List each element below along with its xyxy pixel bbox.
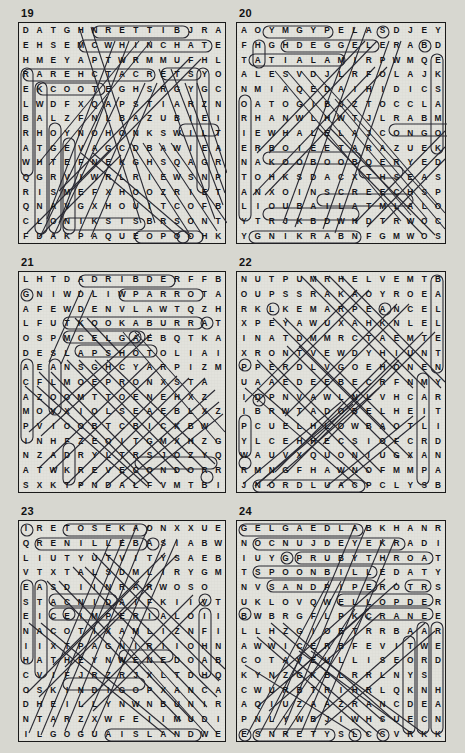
puzzle-number-21: 21: [21, 257, 226, 268]
letter-cell: T: [211, 316, 225, 331]
letter-cell: G: [292, 23, 306, 38]
letter-cell: B: [88, 419, 102, 434]
letter-cell: E: [88, 433, 102, 448]
puzzle-grid-19[interactable]: DATGHNRETTIBJRAEHSEMCWHINCHATEHMEYAPTWRM…: [18, 22, 226, 244]
letter-cell: O: [101, 316, 115, 331]
letter-cell: T: [211, 214, 225, 229]
letter-cell: A: [74, 345, 88, 360]
letter-cell: V: [279, 448, 293, 463]
puzzle-grid-21[interactable]: LHTDADRIBDERFFBGNIWDLIWPARROTAAFEWDENVLA…: [18, 271, 226, 493]
letter-cell: A: [417, 170, 431, 185]
letter-cell: B: [292, 682, 306, 697]
letter-cell: L: [88, 697, 102, 712]
letter-cell: D: [320, 536, 334, 551]
letter-cell: H: [101, 126, 115, 141]
letter-cell: H: [362, 82, 376, 97]
letter-cell: D: [431, 433, 445, 448]
letter-cell: Y: [237, 214, 251, 229]
letter-cell: Q: [251, 697, 265, 712]
letter-cell: O: [431, 199, 445, 214]
letter-cell: S: [390, 170, 404, 185]
letter-cell: [431, 668, 445, 683]
letter-cell: J: [362, 126, 376, 141]
letter-cell: T: [170, 67, 184, 82]
letter-cell: T: [292, 345, 306, 360]
letter-cell: A: [129, 316, 143, 331]
letter-cell: S: [129, 726, 143, 741]
puzzle-grid-24[interactable]: GELGAEDLABKHANRNOCNUJDEYEKRADIIUYGPRUBYT…: [236, 520, 446, 742]
letter-cell: A: [198, 316, 212, 331]
letter-cell: I: [170, 536, 184, 551]
letter-cell: T: [403, 419, 417, 434]
letter-cell: P: [129, 287, 143, 302]
letter-cell: H: [74, 67, 88, 82]
letter-cell: R: [156, 214, 170, 229]
letter-cell: A: [403, 67, 417, 82]
letter-cell: H: [129, 82, 143, 97]
letter-cell: I: [265, 697, 279, 712]
letter-cell: A: [211, 287, 225, 302]
letter-cell: E: [88, 331, 102, 346]
letter-cell: T: [33, 140, 47, 155]
letter-cell: P: [251, 316, 265, 331]
letter-cell: C: [334, 184, 348, 199]
letter-cell: S: [170, 550, 184, 565]
letter-cell: C: [265, 433, 279, 448]
letter-cell: D: [320, 521, 334, 536]
letter-cell: E: [334, 624, 348, 639]
letter-cell: H: [279, 38, 293, 53]
letter-cell: R: [362, 682, 376, 697]
letter-cell: V: [376, 638, 390, 653]
letter-cell: F: [33, 301, 47, 316]
letter-cell: D: [431, 653, 445, 668]
letter-cell: G: [101, 638, 115, 653]
letter-cell: W: [19, 155, 33, 170]
letter-cell: H: [198, 668, 212, 683]
letter-cell: N: [19, 448, 33, 463]
letter-cell: Y: [60, 52, 74, 67]
letter-cell: L: [306, 52, 320, 67]
letter-cell: T: [33, 565, 47, 580]
letter-cell: E: [417, 140, 431, 155]
letter-cell: E: [60, 140, 74, 155]
letter-cell: D: [403, 594, 417, 609]
letter-cell: H: [198, 638, 212, 653]
letter-cell: A: [431, 287, 445, 302]
letter-cell: E: [101, 521, 115, 536]
letter-cell: Q: [292, 82, 306, 97]
letter-cell: S: [417, 668, 431, 683]
letter-cell: N: [376, 697, 390, 712]
letter-cell: N: [279, 536, 293, 551]
letter-cell: K: [265, 155, 279, 170]
letter-cell: H: [46, 433, 60, 448]
letter-cell: A: [129, 331, 143, 346]
letter-cell: E: [320, 433, 334, 448]
puzzle-grid-23[interactable]: IRETOSEKAONXXUEQRENILLEBASIABWLIUTYUTVIT…: [18, 520, 226, 742]
letter-cell: O: [143, 521, 157, 536]
letter-cell: O: [251, 23, 265, 38]
letter-cell: I: [306, 624, 320, 639]
letter-cell: O: [292, 565, 306, 580]
letter-cell: B: [334, 550, 348, 565]
letter-cell: C: [334, 433, 348, 448]
puzzle-grid-22[interactable]: NUTPUMRHELVEMTBOUPSSRAKAOYROEARKLKEMARPE…: [236, 271, 446, 493]
letter-cell: I: [184, 345, 198, 360]
letter-cell: F: [306, 609, 320, 624]
letter-cell: G: [279, 463, 293, 478]
letter-cell: C: [376, 477, 390, 492]
letter-cell: L: [88, 287, 102, 302]
letter-cell: I: [170, 638, 184, 653]
letter-cell: G: [279, 521, 293, 536]
letter-cell: W: [198, 726, 212, 741]
letter-cell: V: [376, 389, 390, 404]
letter-cell: U: [279, 199, 293, 214]
letter-cell: T: [417, 331, 431, 346]
letter-cell: I: [184, 111, 198, 126]
letter-cell: B: [170, 404, 184, 419]
puzzle-grid-20[interactable]: AOYMGYPELASDJEYFHGHDEGGELERABDTATIALAMIR…: [236, 22, 446, 244]
letter-cell: S: [376, 23, 390, 38]
letter-cell: U: [46, 316, 60, 331]
letter-cell: M: [88, 609, 102, 624]
letter-cell: A: [46, 594, 60, 609]
letter-cell: N: [348, 389, 362, 404]
